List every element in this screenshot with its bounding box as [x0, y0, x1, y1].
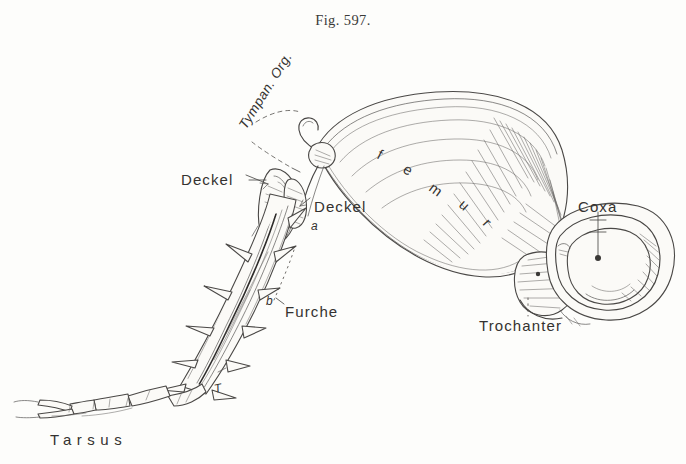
coxa-group	[546, 203, 679, 320]
trochanter-pore	[536, 272, 540, 276]
tarsus-group	[14, 386, 170, 418]
label-trochanter: Trochanter	[479, 317, 562, 334]
label-mark-a: a	[311, 219, 318, 233]
label-tympan-org: Tympan. Org.	[236, 49, 295, 131]
tarsus-segment-3	[70, 400, 96, 414]
label-coxa: Coxa	[578, 198, 617, 215]
leader-tympan-org	[252, 142, 292, 168]
tarsus-segment-2	[94, 394, 130, 410]
label-furche: Furche	[285, 303, 338, 320]
tarsus-segment-1	[128, 386, 170, 406]
label-deckel-right: Deckel	[314, 198, 366, 215]
leg-illustration: f e m u r	[0, 0, 686, 464]
leader-coxa-dot	[595, 255, 601, 261]
label-mark-b: b	[266, 294, 273, 308]
tarsal-claw-lower	[38, 409, 74, 418]
femur-group: f e m u r	[316, 91, 567, 277]
label-deckel-left: Deckel	[181, 171, 233, 188]
label-tarsus: Tarsus	[50, 431, 127, 448]
figure-plate: Fig. 597.	[0, 0, 686, 464]
tibia-group	[160, 194, 306, 406]
